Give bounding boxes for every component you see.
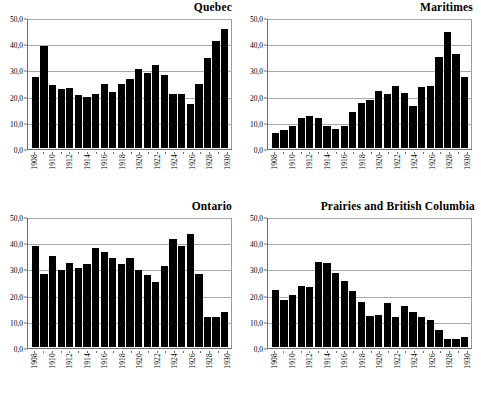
bar: [109, 258, 116, 347]
bar: [298, 286, 305, 347]
bar: [187, 104, 194, 148]
bar-series-quebec: [29, 19, 231, 148]
bar: [169, 94, 176, 148]
y-axis-prairies: 0,010,020,030,040,050,0: [240, 213, 265, 354]
x-tick-label: 1922: [393, 154, 402, 170]
bar: [358, 103, 365, 148]
x-tick-label: 1930: [463, 353, 472, 369]
bar-series-maritimes: [269, 19, 471, 148]
bar: [341, 126, 348, 148]
x-tick-mark: [218, 351, 219, 353]
x-tick-mark: [200, 351, 201, 353]
bar: [40, 46, 47, 148]
x-tick-mark: [318, 152, 319, 154]
x-tick-mark: [131, 152, 132, 154]
y-tick-label: 50,0: [250, 214, 263, 223]
bar: [435, 330, 442, 347]
x-tick-mark: [388, 351, 389, 353]
bar: [49, 85, 56, 148]
x-tick-mark: [405, 152, 406, 154]
x-axis-quebec: 1908191019121914191619181920192219241926…: [27, 152, 232, 196]
x-tick-label: 1924: [170, 353, 179, 369]
x-tick-mark: [148, 152, 149, 154]
bar: [280, 300, 287, 347]
bar: [152, 65, 159, 148]
x-tick-label: 1914: [323, 353, 332, 369]
x-tick-label: 1930: [463, 154, 472, 170]
bar: [298, 118, 305, 148]
x-tick-mark: [43, 351, 44, 353]
bar: [401, 93, 408, 148]
bar: [323, 126, 330, 148]
x-tick-label: 1926: [428, 353, 437, 369]
bar: [427, 86, 434, 148]
bar: [178, 94, 185, 148]
bar: [152, 282, 159, 347]
x-tick-label: 1920: [375, 353, 384, 369]
bar: [461, 337, 468, 347]
x-tick-label: 1920: [135, 353, 144, 369]
x-tick-mark: [96, 152, 97, 154]
bar: [109, 92, 116, 148]
bar: [392, 317, 399, 347]
y-axis-quebec: 0,010,020,030,040,050,0: [0, 14, 25, 155]
bar: [375, 91, 382, 148]
plot-area-maritimes: [267, 19, 472, 150]
x-tick-mark: [336, 152, 337, 154]
x-tick-label: 1908: [30, 353, 39, 369]
bar: [66, 88, 73, 148]
panel-title-maritimes: Maritimes: [420, 1, 473, 13]
x-tick-mark: [283, 152, 284, 154]
bar: [349, 291, 356, 347]
bar-series-ontario: [29, 218, 231, 347]
x-tick-mark: [113, 152, 114, 154]
y-tick-label: 40,0: [10, 41, 23, 50]
bar: [118, 264, 125, 347]
bar: [221, 312, 228, 347]
bar: [409, 312, 416, 347]
y-tick-label: 10,0: [10, 318, 23, 327]
bar: [289, 295, 296, 347]
bar: [32, 246, 39, 347]
bar: [204, 317, 211, 347]
y-tick-label: 0,0: [254, 345, 263, 354]
x-tick-mark: [43, 152, 44, 154]
x-tick-label: 1910: [288, 154, 297, 170]
bar: [452, 54, 459, 148]
panel-quebec: Quebec 0,010,020,030,040,050,0 190819101…: [0, 0, 240, 199]
x-tick-mark: [353, 152, 354, 154]
bar: [187, 234, 194, 347]
plot-frame-right: [231, 19, 232, 149]
y-tick-label: 10,0: [250, 119, 263, 128]
x-tick-label: 1920: [375, 154, 384, 170]
x-tick-label: 1914: [323, 154, 332, 170]
plot-area-prairies: [267, 218, 472, 349]
bar: [101, 84, 108, 148]
bar: [384, 94, 391, 148]
x-tick-mark: [131, 351, 132, 353]
bar: [92, 248, 99, 347]
plot-frame-prairies: [267, 218, 472, 349]
y-tick-label: 0,0: [254, 146, 263, 155]
bar: [178, 246, 185, 347]
bar: [221, 29, 228, 148]
x-tick-label: 1916: [100, 353, 109, 369]
x-tick-mark: [165, 152, 166, 154]
x-tick-label: 1918: [118, 353, 127, 369]
panel-title-prairies: Prairies and British Columbia: [321, 200, 475, 212]
x-tick-mark: [183, 152, 184, 154]
bar-series-prairies: [269, 218, 471, 347]
bar: [272, 290, 279, 347]
bar: [427, 320, 434, 347]
x-tick-label: 1922: [153, 353, 162, 369]
y-tick-label: 50,0: [10, 214, 23, 223]
plot-area-ontario: [27, 218, 232, 349]
y-tick-label: 30,0: [10, 67, 23, 76]
x-tick-label: 1920: [135, 154, 144, 170]
x-axis-ontario: 1908191019121914191619181920192219241926…: [27, 351, 232, 395]
x-tick-label: 1910: [48, 154, 57, 170]
bar: [280, 130, 287, 148]
x-tick-mark: [405, 351, 406, 353]
x-tick-label: 1926: [428, 154, 437, 170]
x-tick-mark: [78, 351, 79, 353]
